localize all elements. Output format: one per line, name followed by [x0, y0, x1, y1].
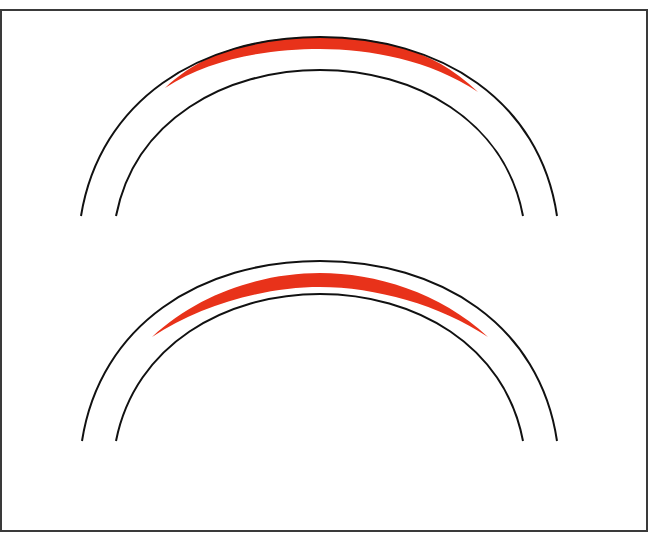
bottom-outer-arc	[82, 261, 557, 441]
bottom-inner-arc	[116, 294, 523, 441]
top-panel	[81, 37, 557, 216]
top-inner-arc	[116, 70, 523, 216]
bottom-panel	[82, 261, 557, 441]
arch-diagram	[0, 0, 649, 534]
top-outer-arc	[81, 37, 557, 216]
top-red-crescent	[165, 37, 478, 92]
bottom-red-crescent	[152, 273, 488, 337]
